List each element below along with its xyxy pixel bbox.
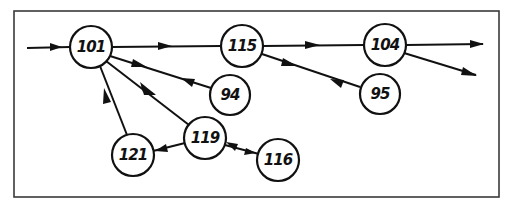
node-116: 116 bbox=[257, 139, 299, 181]
node-label: 95 bbox=[371, 85, 390, 103]
node-label: 115 bbox=[228, 37, 257, 55]
node-94: 94 bbox=[210, 75, 250, 115]
arrowhead-icon bbox=[50, 43, 62, 51]
node-119: 119 bbox=[184, 117, 226, 159]
arrowhead-icon bbox=[155, 144, 168, 152]
arrowhead-icon bbox=[140, 82, 156, 95]
node-104: 104 bbox=[364, 24, 406, 66]
arrowhead-icon bbox=[461, 67, 477, 76]
arrowhead-icon bbox=[281, 58, 297, 66]
edge-input-101 bbox=[27, 47, 70, 48]
node-label: 121 bbox=[119, 146, 147, 164]
arrowhead-icon bbox=[131, 59, 147, 67]
node-label: 116 bbox=[264, 151, 293, 169]
node-95: 95 bbox=[360, 74, 400, 114]
arrowhead-icon bbox=[158, 42, 172, 50]
edge-115-95 bbox=[262, 54, 360, 87]
node-label: 119 bbox=[191, 129, 220, 147]
arrowhead-icon bbox=[181, 78, 195, 87]
arrowhead-icon bbox=[305, 41, 320, 49]
node-101: 101 bbox=[70, 26, 112, 68]
node-121: 121 bbox=[112, 134, 154, 176]
node-label: 101 bbox=[77, 38, 105, 56]
arrowhead-icon bbox=[244, 148, 256, 155]
node-label: 94 bbox=[221, 86, 240, 104]
arrowhead-icon bbox=[470, 40, 484, 48]
edge-101-94 bbox=[110, 56, 211, 88]
arrowhead-icon bbox=[330, 79, 344, 88]
network-diagram: 101 115 104 94 95 119 121 116 bbox=[0, 0, 513, 210]
node-115: 115 bbox=[221, 25, 263, 67]
node-label: 104 bbox=[371, 36, 400, 54]
